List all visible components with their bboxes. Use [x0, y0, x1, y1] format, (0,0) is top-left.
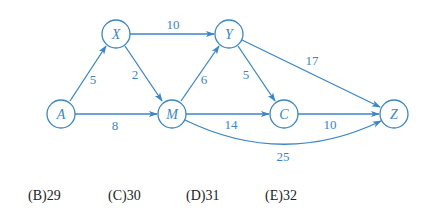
weight-c-z: 10	[324, 117, 337, 132]
weight-y-c: 5	[243, 67, 250, 82]
option-d-value: 31	[205, 188, 219, 203]
weight-m-c: 14	[225, 117, 239, 132]
option-d: (D)31	[186, 188, 219, 204]
node-x-label: X	[111, 27, 121, 42]
option-e: (E)32	[265, 188, 297, 204]
option-c-letter: (C)	[108, 188, 127, 203]
node-a-label: A	[56, 107, 66, 122]
answer-options: (B)29 (C)30 (D)31 (E)32	[0, 188, 428, 210]
node-y: Y	[215, 20, 243, 48]
option-b-value: 29	[47, 188, 61, 203]
weight-y-z: 17	[306, 53, 320, 68]
weight-m-y: 6	[201, 72, 208, 87]
option-d-letter: (D)	[186, 188, 205, 203]
node-z: Z	[380, 100, 408, 128]
weight-x-y: 10	[167, 17, 180, 32]
node-z-label: Z	[390, 107, 398, 122]
node-a: A	[47, 100, 75, 128]
node-c: C	[270, 100, 298, 128]
graph-diagram: 5 8 10 2 6 5 17 14 10 25 A X M Y C Z	[0, 0, 428, 180]
option-e-value: 32	[283, 188, 297, 203]
node-m-label: M	[165, 107, 179, 122]
node-m: M	[158, 100, 186, 128]
option-c: (C)30	[108, 188, 141, 204]
node-x: X	[102, 20, 130, 48]
option-b: (B)29	[28, 188, 61, 204]
node-c-label: C	[279, 107, 289, 122]
edge-a-x	[70, 46, 106, 101]
option-b-letter: (B)	[28, 188, 47, 203]
weight-m-z: 25	[277, 149, 290, 164]
option-c-value: 30	[127, 188, 141, 203]
weight-x-m: 2	[132, 67, 139, 82]
weight-a-m: 8	[112, 118, 119, 133]
weight-a-x: 5	[90, 72, 97, 87]
edge-x-m	[125, 46, 162, 101]
edge-y-z	[242, 40, 380, 107]
option-e-letter: (E)	[265, 188, 283, 203]
